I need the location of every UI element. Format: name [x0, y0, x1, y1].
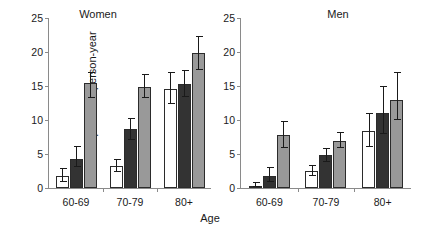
- error-bar-cap-bottom: [196, 69, 203, 70]
- error-bar-cap-bottom: [267, 181, 274, 182]
- error-bar-cap-top: [380, 86, 387, 87]
- error-bar: [116, 159, 117, 172]
- x-axis-tick-label: 70-79: [313, 196, 340, 208]
- error-bar-cap-bottom: [182, 96, 189, 97]
- error-bar-cap-bottom: [337, 147, 344, 148]
- error-bar-cap-bottom: [281, 147, 288, 148]
- x-axis-tick-label: 70-79: [117, 196, 144, 208]
- error-bar: [76, 146, 77, 167]
- error-bar: [184, 70, 185, 97]
- error-bar-cap-top: [366, 113, 373, 114]
- error-bar-cap-top: [88, 72, 95, 73]
- error-bar-cap-bottom: [74, 166, 81, 167]
- x-axis-tick-mark: [157, 188, 158, 192]
- error-bar-cap-top: [267, 167, 274, 168]
- error-bar-cap-top: [253, 182, 260, 183]
- error-bar-cap-top: [323, 148, 330, 149]
- error-bar-cap-top: [309, 165, 316, 166]
- error-bar-cap-top: [394, 72, 401, 73]
- error-bar: [130, 118, 131, 140]
- bar-women-vert-80+: [178, 84, 191, 188]
- bar-group: 80+: [354, 18, 411, 188]
- error-bar: [198, 36, 199, 70]
- error-bar: [283, 121, 284, 148]
- x-axis-tick-label: 80+: [374, 196, 392, 208]
- incidence-by-age-and-sex-chart: Women Incidence per 1000/person-year 051…: [0, 0, 426, 238]
- chart-panel-women: Women Incidence per 1000/person-year 051…: [0, 0, 213, 238]
- error-bar: [369, 113, 370, 147]
- error-bar: [255, 182, 256, 187]
- error-bar-cap-bottom: [114, 171, 121, 172]
- error-bar: [326, 148, 327, 162]
- bar-women-nhnv-60-69: [84, 83, 97, 188]
- error-bar-cap-top: [337, 132, 344, 133]
- y-axis-tick-label: 5: [201, 148, 241, 160]
- y-axis-tick-label: 25: [9, 12, 49, 24]
- error-bar-cap-top: [114, 159, 121, 160]
- error-bar: [62, 168, 63, 182]
- error-bar-cap-bottom: [366, 146, 373, 147]
- plot-area-men: 051015202560-6970-7980+: [240, 18, 411, 189]
- bar-group: 70-79: [103, 18, 157, 188]
- error-bar-cap-top: [281, 121, 288, 122]
- error-bar-cap-bottom: [309, 175, 316, 176]
- error-bar-cap-top: [142, 74, 149, 75]
- error-bar: [397, 72, 398, 120]
- error-bar-cap-bottom: [394, 119, 401, 120]
- error-bar-cap-top: [74, 146, 81, 147]
- error-bar-cap-bottom: [88, 97, 95, 98]
- bar-group: 70-79: [298, 18, 355, 188]
- y-axis-tick-mark: [237, 188, 241, 189]
- y-axis-tick-label: 5: [9, 148, 49, 160]
- bar-men-nhnv-70-79: [333, 141, 346, 188]
- error-bar: [90, 72, 91, 99]
- y-axis-tick-label: 0: [9, 182, 49, 194]
- x-axis-tick-label: 60-69: [63, 196, 90, 208]
- error-bar: [312, 165, 313, 176]
- error-bar-cap-top: [168, 72, 175, 73]
- y-axis-tick-label: 20: [9, 46, 49, 58]
- y-axis-tick-label: 25: [201, 12, 241, 24]
- error-bar: [269, 167, 270, 182]
- x-axis-tick-mark: [354, 188, 355, 192]
- error-bar-cap-top: [60, 168, 67, 169]
- chart-panel-men: Men 051015202560-6970-7980+ Hip Vertebra…: [213, 0, 426, 238]
- error-bar-cap-bottom: [253, 186, 260, 187]
- error-bar: [383, 86, 384, 134]
- bar-group: 80+: [157, 18, 211, 188]
- plot-area-women: 051015202560-6970-7980+: [48, 18, 211, 189]
- error-bar-cap-bottom: [323, 161, 330, 162]
- error-bar-cap-bottom: [142, 97, 149, 98]
- x-axis-tick-mark: [298, 188, 299, 192]
- error-bar: [170, 72, 171, 104]
- y-axis-tick-label: 10: [201, 114, 241, 126]
- bar-group: 60-69: [49, 18, 103, 188]
- y-axis-tick-label: 0: [201, 182, 241, 194]
- error-bar: [340, 132, 341, 148]
- y-axis-tick-label: 15: [201, 80, 241, 92]
- x-axis-tick-label: 80+: [175, 196, 193, 208]
- error-bar-cap-bottom: [380, 133, 387, 134]
- error-bar-cap-top: [128, 118, 135, 119]
- x-axis-label: Age: [150, 212, 270, 224]
- error-bar-cap-bottom: [168, 103, 175, 104]
- y-axis-tick-mark: [45, 188, 49, 189]
- y-axis-tick-label: 10: [9, 114, 49, 126]
- y-axis-tick-label: 15: [9, 80, 49, 92]
- x-axis-tick-mark: [103, 188, 104, 192]
- y-axis-tick-label: 20: [201, 46, 241, 58]
- error-bar: [144, 74, 145, 98]
- bar-group: 60-69: [241, 18, 298, 188]
- x-axis-tick-label: 60-69: [256, 196, 283, 208]
- bar-women-nhnv-70-79: [138, 87, 151, 188]
- error-bar-cap-top: [182, 70, 189, 71]
- error-bar-cap-top: [196, 36, 203, 37]
- error-bar-cap-bottom: [128, 139, 135, 140]
- error-bar-cap-bottom: [60, 181, 67, 182]
